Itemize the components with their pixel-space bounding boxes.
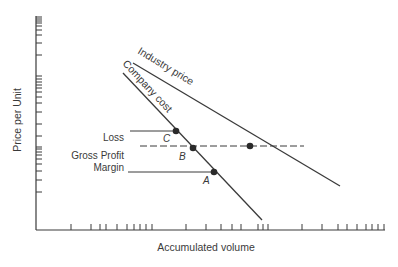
industry-price-line <box>133 63 340 186</box>
x-axis-ticks <box>71 224 384 230</box>
point-a-label: A <box>202 175 210 186</box>
point-c-label: C <box>163 133 171 144</box>
point-a <box>211 169 218 176</box>
y-axis-ticks <box>36 17 42 192</box>
point-intersection <box>247 143 254 150</box>
point-c <box>173 128 180 135</box>
reference-lines <box>128 131 304 172</box>
axes <box>36 16 385 230</box>
loss-label: Loss <box>103 132 124 143</box>
y-axis-title: Price per Unit <box>11 88 23 152</box>
margin-label: Margin <box>93 162 124 173</box>
experience-curve-chart: Industry price Company cost Loss Gross P… <box>0 0 398 267</box>
x-axis-title: Accumulated volume <box>157 241 255 253</box>
point-b <box>190 145 197 152</box>
gross-profit-label: Gross Profit <box>71 150 124 161</box>
point-b-label: B <box>179 151 186 162</box>
